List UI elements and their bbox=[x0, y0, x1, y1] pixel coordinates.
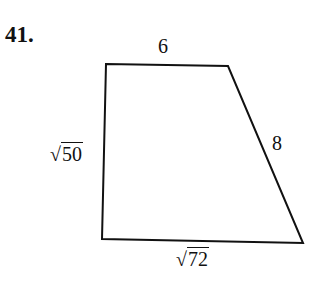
radical-sign: √ bbox=[50, 143, 61, 165]
radicand: 72 bbox=[187, 247, 209, 270]
side-label-bottom: √72 bbox=[176, 248, 209, 271]
side-label-right: 8 bbox=[272, 132, 282, 155]
side-label-top: 6 bbox=[158, 35, 168, 58]
radical-sign: √ bbox=[176, 248, 187, 270]
radicand: 50 bbox=[61, 142, 83, 165]
side-label-left: √50 bbox=[50, 143, 83, 166]
